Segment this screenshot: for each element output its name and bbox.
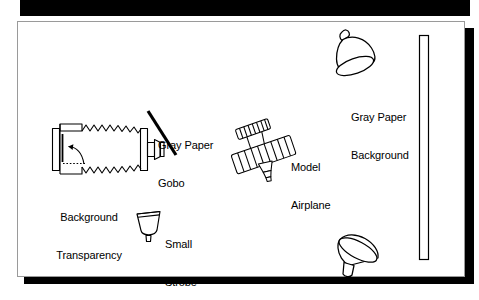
label-background-transparency: Background Transparency [38,186,140,286]
label-line: Small [165,238,197,251]
label-line: Background [351,149,409,162]
label-line: Gray Paper [158,139,213,152]
label-line: Airplane [291,199,331,212]
model-airplane [225,114,300,187]
label-line: Gray Paper [351,111,409,124]
label-line: Background [38,211,140,224]
strobe-head-lower [336,233,381,277]
background-transparency-unit [53,124,165,174]
label-line: Transparency [38,249,140,262]
figure-stage: Background Transparency Gray Paper Gobo … [0,0,479,300]
label-line: Model [291,161,331,174]
small-strobe [137,212,160,242]
label-small-strobe: Small Strobe [165,213,197,300]
label-model-airplane: Model Airplane [291,136,331,236]
gray-paper-background-sweep [420,36,429,260]
label-line: Gobo [158,177,213,190]
label-line: Strobe [165,276,197,289]
strobe-head-upper [334,30,376,80]
label-gray-paper-gobo: Gray Paper Gobo [158,114,213,214]
label-gray-paper-background: Gray Paper Background [351,86,409,186]
